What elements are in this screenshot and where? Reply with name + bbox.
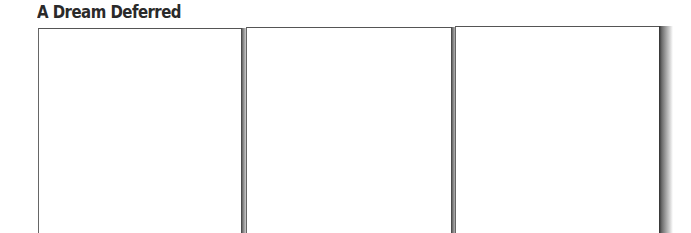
comic-panel-2 xyxy=(246,27,451,233)
comic-panel-1 xyxy=(38,28,241,233)
page-title: A Dream Deferred xyxy=(37,2,181,22)
comic-panel-3 xyxy=(455,26,659,233)
